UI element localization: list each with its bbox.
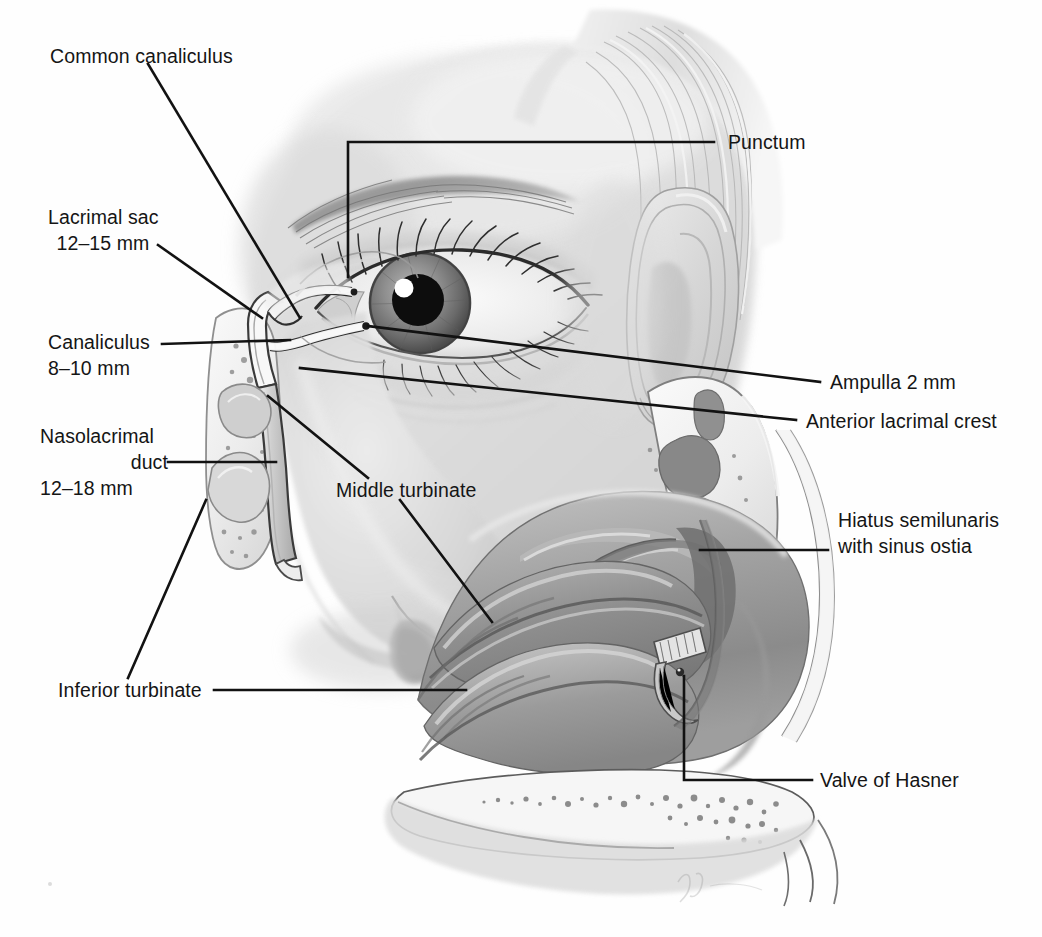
middle-turbinate-left-cut bbox=[218, 384, 271, 438]
label-nasolacrimal-duct-line1: Nasolacrimal bbox=[40, 424, 154, 449]
superior-punctum bbox=[351, 289, 358, 296]
label-nasolacrimal-duct-line2: duct bbox=[40, 450, 168, 475]
label-canaliculus: Canaliculus bbox=[48, 330, 150, 355]
label-punctum: Punctum bbox=[728, 130, 806, 155]
label-common-canaliculus: Common canaliculus bbox=[50, 44, 233, 69]
corneal-highlight bbox=[395, 279, 414, 298]
label-middle-turbinate: Middle turbinate bbox=[336, 478, 476, 503]
label-lacrimal-sac: Lacrimal sac bbox=[48, 205, 159, 230]
label-anterior-lacrimal-crest: Anterior lacrimal crest bbox=[806, 409, 997, 434]
label-lacrimal-sac-size: 12–15 mm bbox=[48, 231, 158, 256]
label-inferior-turbinate: Inferior turbinate bbox=[58, 678, 202, 703]
anatomy-figure: Common canaliculus Lacrimal sac 12–15 mm… bbox=[0, 0, 1042, 937]
label-nasolacrimal-duct-size: 12–18 mm bbox=[40, 476, 133, 501]
label-canaliculus-size: 8–10 mm bbox=[48, 356, 130, 381]
label-hiatus-sinus-ostia: with sinus ostia bbox=[838, 534, 972, 559]
label-valve-of-hasner: Valve of Hasner bbox=[820, 768, 959, 793]
label-hiatus-semilunaris: Hiatus semilunaris bbox=[838, 508, 999, 533]
label-ampulla: Ampulla 2 mm bbox=[830, 370, 956, 395]
lateral-nasal-wall-cutaway bbox=[418, 491, 809, 778]
